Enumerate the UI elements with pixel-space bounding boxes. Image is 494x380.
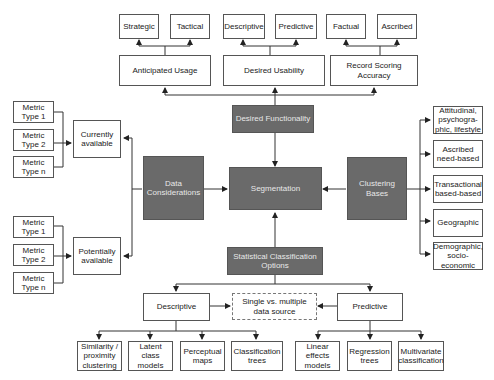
node-currently-available: Currently available: [73, 120, 121, 158]
node-strategic: Strategic: [119, 14, 159, 39]
node-ascribed: Ascribed: [377, 14, 417, 39]
node-classification-trees: Classification trees: [231, 341, 283, 371]
node-transactional: Transactional based-based: [433, 175, 483, 203]
node-statistical-classification-options: Statistical Classification Options: [227, 247, 323, 275]
node-metric-type-1-current: Metric Type 1: [13, 101, 54, 123]
segmentation-diagram: Strategic Tactical Descriptive Predictiv…: [0, 0, 494, 380]
node-record-scoring-accuracy: Record Scoring Accuracy: [330, 55, 418, 86]
node-metric-type-n-current: Metric Type n: [13, 156, 54, 178]
node-demographic: Demographic, socio-economic: [433, 242, 483, 270]
node-desired-functionality: Desired Functionality: [232, 105, 314, 133]
node-clustering-bases: Clustering Bases: [347, 157, 407, 220]
node-segmentation: Segmentation: [229, 167, 322, 210]
node-metric-type-2-potential: Metric Type 2: [13, 244, 54, 266]
node-descriptive: Descriptive: [143, 293, 210, 321]
node-desired-usability: Desired Usability: [223, 55, 325, 86]
node-tactical: Tactical: [170, 14, 210, 39]
node-descriptive-usability: Descriptive: [223, 14, 265, 39]
node-metric-type-1-potential: Metric Type 1: [13, 216, 54, 238]
node-metric-type-n-potential: Metric Type n: [13, 272, 54, 294]
node-regression-trees: Regression trees: [347, 341, 392, 371]
node-metric-type-2-current: Metric Type 2: [13, 129, 54, 151]
node-potentially-available: Potentially available: [73, 237, 121, 275]
node-linear-effects-models: Linear effects models: [295, 341, 340, 371]
node-similarity-clustering: Similarity / proximity clustering: [77, 341, 122, 371]
node-ascribed-need-based: Ascribed need-based: [433, 140, 483, 168]
node-predictive-usability: Predictive: [275, 14, 317, 39]
node-single-vs-multiple-data-source: Single vs. multiple data source: [232, 293, 317, 320]
node-multivariate-classification: Multivariate classification: [398, 341, 444, 371]
node-attitudinal: Attitudinal, psychogra-phic, lifestyle: [433, 106, 483, 134]
node-perceptual-maps: Perceptual maps: [180, 341, 225, 371]
node-anticipated-usage: Anticipated Usage: [119, 55, 211, 86]
node-factual: Factual: [326, 14, 366, 39]
node-latent-class-models: Latent class models: [128, 341, 173, 371]
node-geographic: Geographic: [433, 209, 483, 237]
node-predictive: Predictive: [337, 293, 403, 321]
node-data-considerations: Data Considerations: [143, 156, 204, 220]
